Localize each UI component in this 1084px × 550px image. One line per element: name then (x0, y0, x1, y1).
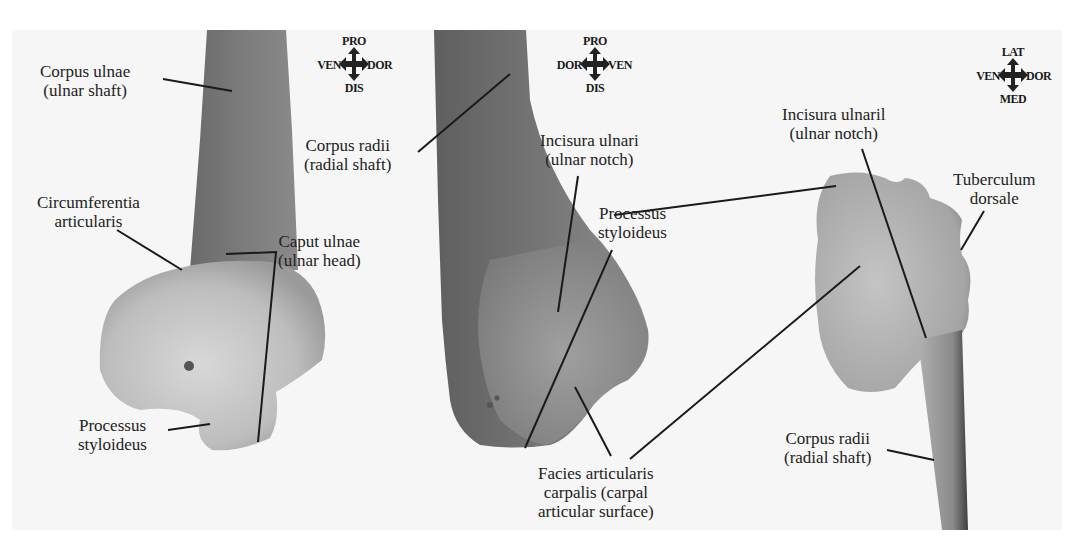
four-way-arrow-icon (339, 47, 369, 81)
label-incisura-ulnari: Incisura ulnari (ulnar notch) (540, 131, 639, 169)
label-corpus-radii: Corpus radii (radial shaft) (304, 136, 391, 174)
compass-left-label: VEN (317, 58, 341, 73)
compass-bottom-label: DIS (530, 81, 660, 96)
label-facies-articularis-carpalis: Facies articularis carpalis (carpal arti… (538, 464, 654, 521)
label-processus-styloideus-radius: Processus styloideus (598, 204, 667, 242)
label-caput-ulnae: Caput ulnae (ulnar head) (278, 232, 361, 270)
compass-bottom-label: MED (948, 92, 1078, 107)
compass-left-label: VEN (976, 69, 1000, 84)
label-corpus-ulnae: Corpus ulnae (ulnar shaft) (40, 62, 130, 100)
compass-left-label: DOR (557, 58, 582, 73)
compass-right-label: VEN (608, 58, 632, 73)
radius-end-view-illustration (815, 172, 970, 530)
orientation-compass-radius: PRO DOR VEN DIS (530, 34, 660, 96)
label-tuberculum-dorsale: Tuberculum dorsale (953, 170, 1036, 208)
label-processus-styloideus-ulna: Processus styloideus (78, 416, 147, 454)
compass-right-label: DOR (367, 58, 392, 73)
orientation-compass-ulna: PRO VEN DOR DIS (289, 34, 419, 96)
compass-bottom-label: DIS (289, 81, 419, 96)
compass-right-label: DOR (1026, 69, 1051, 84)
four-way-arrow-icon (580, 47, 610, 81)
label-corpus-radii-end-view: Corpus radii (radial shaft) (784, 429, 871, 467)
orientation-compass-end-view: LAT VEN DOR MED (948, 45, 1078, 107)
label-incisura-ulnaril: Incisura ulnaril (ulnar notch) (782, 105, 885, 143)
label-circumferentia-articularis: Circumferentia articularis (37, 193, 140, 231)
four-way-arrow-icon (998, 58, 1028, 92)
